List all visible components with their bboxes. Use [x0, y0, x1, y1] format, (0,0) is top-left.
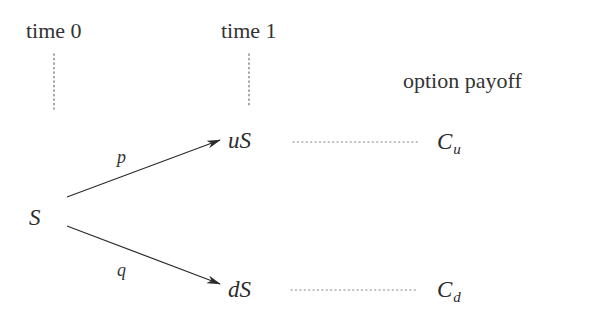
- up-payoff-subscript: u: [453, 141, 461, 157]
- down-probability-q: q: [117, 261, 126, 279]
- up-probability-p: p: [117, 148, 126, 166]
- up-node-uS: uS: [228, 129, 251, 152]
- down-payoff-Cd: Cd: [437, 278, 461, 301]
- down-payoff-base: C: [437, 277, 452, 302]
- time1-header: time 1: [221, 20, 277, 42]
- up-branch-arrow: [67, 140, 220, 197]
- payoff-header: option payoff: [403, 70, 522, 92]
- binomial-tree-diagram: time 0 time 1 option payoff S uS dS p q …: [0, 0, 592, 322]
- down-node-dS: dS: [228, 278, 251, 301]
- down-payoff-subscript: d: [453, 289, 461, 305]
- root-node-S: S: [29, 206, 41, 229]
- down-branch-arrow: [67, 226, 220, 284]
- connector-lines: [0, 0, 592, 322]
- up-payoff-base: C: [437, 129, 452, 154]
- up-payoff-Cu: Cu: [437, 130, 461, 153]
- time0-header: time 0: [26, 20, 82, 42]
